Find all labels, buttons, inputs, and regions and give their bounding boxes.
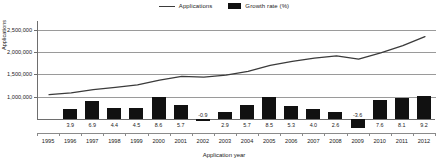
growth-rate-bar-column [125,88,147,119]
growth-rate-bar-column [103,88,125,119]
x-axis-tick-label: 1999 [126,138,148,144]
growth-rate-bar-column [280,88,302,119]
growth-rate-bar [152,97,166,119]
growth-rate-bar-column [148,88,170,119]
growth-rate-bar [284,106,298,120]
x-axis-tick-label: 2011 [391,138,413,144]
y-axis-tick-label: 2,500,000 [7,27,32,33]
x-axis-tick-labels: 1995199619971998199920002001200220032004… [37,136,435,150]
growth-rate-bar-column [236,88,258,119]
growth-rate-bar-column [37,88,59,119]
growth-rate-bar [85,101,99,119]
growth-rate-bar-column [258,88,280,119]
x-axis-tick-mark [435,133,436,136]
box-swatch-icon [228,3,241,9]
x-axis-tick-label: 2010 [369,138,391,144]
growth-rate-bar-column [59,88,81,119]
x-axis-tick-label: 2008 [325,138,347,144]
x-axis-title: Application year [0,152,448,158]
growth-rate-bar-column [214,88,236,119]
growth-rate-value-label: -3.6 [347,112,369,118]
x-axis-tick-label: 2012 [413,138,435,144]
growth-rate-bar-column [369,88,391,119]
negative-bars-band [37,119,435,135]
x-axis-tick-label: 2004 [236,138,258,144]
application-statistics-chart: Applications Growth rate (%) Application… [0,0,448,168]
y-axis-tick-label: 1,500,000 [7,71,32,77]
x-axis-tick-label: 2009 [347,138,369,144]
growth-rate-bar [218,112,232,119]
growth-rate-bar [417,96,431,120]
x-axis-tick-label: 2005 [258,138,280,144]
growth-rate-bar [107,108,121,119]
x-axis-tick-label: 1995 [37,138,59,144]
chart-legend: Applications Growth rate (%) [0,3,448,9]
y-axis-title: Applications [1,20,7,50]
legend-item-growth-rate: Growth rate (%) [228,3,289,9]
growth-rate-bar-column [413,88,435,119]
x-axis-tick-label: 1996 [59,138,81,144]
growth-rate-bar-negative [196,119,210,121]
growth-rate-bar [395,98,409,119]
legend-label-applications: Applications [179,3,213,9]
y-axis-tick-label: 2,000,000 [7,49,32,55]
growth-rate-bar-negative [351,119,365,128]
growth-rate-bar-column [81,88,103,119]
x-axis-tick-label: 2002 [192,138,214,144]
line-swatch-icon [159,6,175,7]
x-axis-tick-label: 2007 [302,138,324,144]
x-axis-tick-label: 1997 [81,138,103,144]
growth-rate-bar-column [391,88,413,119]
x-axis-tick-label: 2003 [214,138,236,144]
x-axis-tick-label: 2000 [148,138,170,144]
growth-rate-bar-series [37,88,435,119]
legend-item-applications: Applications [159,3,213,9]
growth-rate-bar [373,100,387,119]
growth-rate-bar [240,105,254,120]
growth-rate-bar [63,109,77,119]
legend-label-growth-rate: Growth rate (%) [245,3,289,9]
growth-rate-bar [174,105,188,120]
growth-rate-bar-column [324,88,346,119]
growth-rate-bar [328,112,342,119]
growth-rate-bar-column [170,88,192,119]
x-axis-tick-label: 2006 [280,138,302,144]
growth-rate-value-label: -0.9 [192,112,214,118]
growth-rate-bar-column [302,88,324,119]
x-axis-tick-label: 2001 [170,138,192,144]
growth-rate-bar [262,97,276,119]
growth-rate-bar [306,109,320,119]
growth-rate-bar [129,108,143,120]
x-axis-tick-label: 1998 [103,138,125,144]
y-axis-tick-label: 1,000,000 [7,94,32,100]
